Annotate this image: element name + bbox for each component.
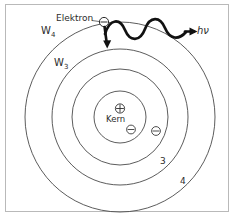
- electron-icon-shell2: [152, 127, 161, 136]
- label-elektron: Elektron: [56, 14, 93, 23]
- photon-wave-icon: [105, 19, 198, 39]
- label-shell-3: 3: [160, 157, 166, 166]
- electron-icon-shell1: [127, 125, 136, 134]
- electron-icon-shell4: [99, 17, 108, 26]
- bohr-atom-figure: Elektron hν W4 W3 Kern 3 4: [0, 0, 236, 219]
- label-nucleus: Kern: [106, 115, 125, 124]
- label-energy-level-w4-subscript: 4: [51, 31, 55, 39]
- label-energy-level-w3-subscript: 3: [64, 63, 68, 71]
- label-energy-level-w3: W3: [54, 58, 68, 71]
- label-energy-level-w4: W4: [41, 26, 55, 39]
- nucleus-icon: [115, 104, 124, 113]
- label-energy-level-w3-text: W: [54, 57, 64, 68]
- label-photon-energy: hν: [197, 26, 209, 36]
- label-energy-level-w4-text: W: [41, 25, 51, 36]
- label-shell-4: 4: [180, 177, 186, 186]
